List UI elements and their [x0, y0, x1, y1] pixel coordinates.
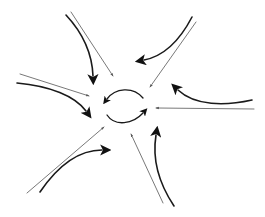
arrow-group-top-right	[144, 17, 196, 87]
curved-arrow-icon	[17, 83, 86, 111]
thin-arrow-icon	[27, 127, 104, 193]
curved-arrow-icon	[40, 150, 102, 192]
curved-arrow-icon	[178, 90, 252, 104]
converging-arrows-diagram	[0, 0, 265, 217]
thin-arrow-icon	[156, 108, 254, 109]
arrow-group-bottom-left	[27, 127, 104, 193]
central-cycle	[107, 90, 143, 123]
thin-arrow-icon	[131, 134, 163, 203]
arrow-group-left	[17, 74, 89, 111]
arrow-group-bottom	[131, 134, 174, 206]
curved-arrow-icon	[66, 15, 93, 76]
cycle-bottom-arrow-icon	[107, 113, 143, 123]
arrow-group-top-left	[66, 12, 113, 76]
cycle-top-arrow-icon	[107, 90, 143, 99]
curved-arrow-icon	[155, 135, 174, 206]
thin-arrow-icon	[150, 22, 196, 87]
arrow-group-right	[156, 90, 254, 109]
